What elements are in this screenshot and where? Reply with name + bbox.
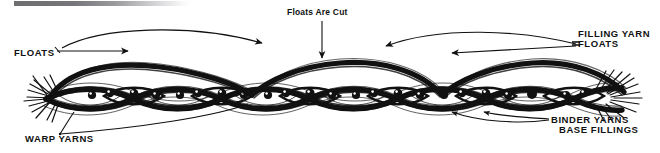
filling-floats-arrow-long: [386, 32, 576, 46]
annotation-leaders: [55, 21, 580, 135]
label-base-fillings: BASE FILLINGS: [559, 124, 638, 135]
binder-yarns-leader: [484, 112, 549, 119]
label-warp-yarns: WARP YARNS: [25, 133, 94, 144]
base-fillings-leader: [452, 112, 549, 122]
label-floats-are-cut: Floats Are Cut: [287, 7, 348, 17]
warp-yarns-leader-a: [60, 112, 74, 134]
floats-left-curved-arrow: [62, 30, 262, 48]
filling-floats-arrow-short: [452, 46, 576, 53]
fabric-body: [44, 83, 622, 116]
weave-diagram: FLOATS Floats Are Cut FILLING YARN FLOAT…: [0, 0, 660, 153]
label-filling-yarn-floats: FLOATS: [578, 38, 619, 49]
label-floats-left: FLOATS: [14, 47, 55, 58]
floats-left-tick: [55, 47, 60, 53]
